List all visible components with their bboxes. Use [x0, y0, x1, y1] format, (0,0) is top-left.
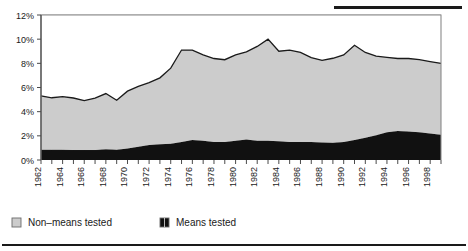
x-tick-label-1962: 1962 [33, 167, 43, 187]
x-tick-label-1964: 1964 [55, 167, 65, 187]
bottom-decorative-rule [2, 244, 466, 246]
x-tick-label-1992: 1992 [357, 167, 367, 187]
y-tick-label-4: 4% [21, 107, 34, 117]
x-tick-label-1986: 1986 [292, 167, 302, 187]
x-tick-label-1982: 1982 [249, 167, 259, 187]
y-tick-label-12: 12% [16, 11, 34, 21]
x-tick-label-1974: 1974 [163, 167, 173, 187]
y-tick-label-0: 0% [21, 156, 34, 166]
top-decorative-rule [334, 6, 462, 9]
y-tick-label-8: 8% [21, 59, 34, 69]
x-tick-label-1970: 1970 [119, 167, 129, 187]
x-tick-label-1984: 1984 [271, 167, 281, 187]
x-tick-label-1998: 1998 [422, 167, 432, 187]
y-tick-label-2: 2% [21, 131, 34, 141]
x-tick-label-1988: 1988 [314, 167, 324, 187]
stacked-area-chart: 0%2%4%6%8%10%12% 19621964196619681970197… [0, 0, 468, 251]
x-axis-tick-labels: 1962196419661968197019721974197619781980… [33, 167, 432, 187]
x-tick-label-1978: 1978 [206, 167, 216, 187]
legend-label-1: Means tested [176, 217, 236, 228]
x-tick-label-1994: 1994 [379, 167, 389, 187]
x-tick-label-1968: 1968 [98, 167, 108, 187]
x-tick-label-1996: 1996 [401, 167, 411, 187]
y-tick-label-6: 6% [21, 83, 34, 93]
chart-figure: 0%2%4%6%8%10%12% 19621964196619681970197… [0, 0, 468, 251]
x-tick-label-1976: 1976 [184, 167, 194, 187]
x-tick-label-1966: 1966 [76, 167, 86, 187]
y-axis-tick-labels: 0%2%4%6%8%10%12% [16, 11, 34, 166]
chart-legend: Non–means testedMeans tested [12, 217, 236, 228]
y-tick-label-10: 10% [16, 35, 34, 45]
area-layer [41, 15, 441, 160]
legend-swatch-0 [12, 218, 21, 227]
x-tick-label-1980: 1980 [228, 167, 238, 187]
legend-label-0: Non–means tested [28, 217, 112, 228]
x-tick-label-1972: 1972 [141, 167, 151, 187]
x-tick-label-1990: 1990 [336, 167, 346, 187]
